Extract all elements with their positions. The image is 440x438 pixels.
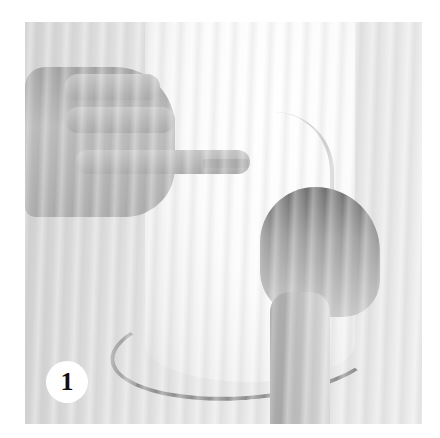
step-number-badge: 1: [46, 361, 88, 403]
step-number: 1: [61, 367, 74, 397]
texture-overlay: [25, 22, 422, 424]
instruction-photo: [25, 22, 422, 424]
